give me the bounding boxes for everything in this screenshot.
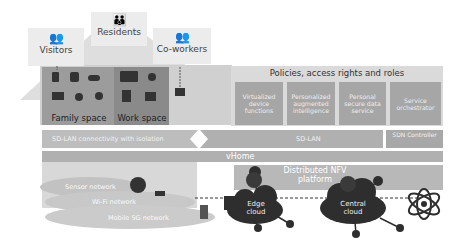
work-space-label: Work space	[114, 114, 170, 123]
policies-title: Policies, access rights and roles	[231, 68, 443, 78]
sdlan-label: SD-LAN	[296, 135, 321, 143]
residents-label: Residents	[91, 27, 147, 37]
edge-cloud-label: Edge cloud	[238, 200, 274, 216]
coworkers-label: Co-workers	[153, 44, 211, 54]
family-icon: 👪	[91, 13, 147, 27]
sdn-controller-label: SDN Controller	[386, 131, 443, 138]
residents-card: 👪 Residents	[91, 12, 147, 46]
sensor-network-label: Sensor network	[65, 183, 116, 191]
service-virtualized-device-functions: Virtualized device functions	[235, 82, 283, 125]
family-space-label: Family space	[46, 114, 112, 123]
visitors-label: Visitors	[28, 45, 84, 55]
visitors-card: 👥 Visitors	[28, 28, 84, 66]
vhome-label: vHome	[226, 152, 254, 161]
service-orchestrator: Service orchestrator	[390, 82, 441, 125]
sdlan-isolation-label: SD-LAN connectivity with isolation	[52, 135, 164, 143]
coworkers-icon: 👥	[153, 30, 211, 44]
mobile-5g-network-label: Mobile 5G network	[108, 214, 169, 222]
nfv-platform-label: Distributed NFV platform	[280, 166, 350, 184]
service-personalized-ai: Personalized augmented intelligence	[287, 82, 335, 125]
central-cloud-label: Central cloud	[333, 200, 373, 216]
people-icon: 👥	[28, 31, 84, 45]
coworkers-card: 👥 Co-workers	[153, 28, 211, 64]
wifi-network-label: Wi-Fi network	[92, 198, 136, 206]
service-personal-secure-data: Personal secure data service	[339, 82, 386, 125]
